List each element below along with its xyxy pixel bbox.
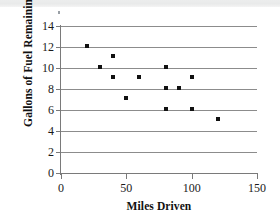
data-point [164,65,168,69]
data-point [216,117,220,121]
x-tick-label-0: 0 [41,182,81,194]
data-point [137,75,141,79]
y-tick-8 [56,89,61,90]
y-tick-14 [56,26,61,27]
scatter-chart: 02468101214 050100150 Gallons of Fuel Re… [0,0,280,223]
y-tick-label-2: 2 [32,146,54,158]
data-point [177,86,181,90]
y-tick-label-14: 14 [32,20,54,32]
x-axis-line [61,173,258,174]
x-tick-0 [61,174,62,179]
gridline-y-10 [61,68,257,69]
y-tick-10 [56,68,61,69]
plot-area [61,26,257,173]
data-point [164,86,168,90]
y-tick-12 [56,47,61,48]
x-tick-150 [257,174,258,179]
data-point [124,96,128,100]
x-tick-label-150: 150 [237,182,277,194]
y-tick-label-0: 0 [32,167,54,179]
data-point [190,75,194,79]
y-tick-label-12: 12 [32,41,54,53]
data-point [85,44,89,48]
y-tick-label-10: 10 [32,62,54,74]
data-point [111,54,115,58]
gridline-y-4 [61,131,257,132]
y-tick-6 [56,110,61,111]
x-tick-label-100: 100 [172,182,212,194]
y-tick-4 [56,131,61,132]
gridline-y-14 [61,26,257,27]
y-tick-label-4: 4 [32,125,54,137]
x-tick-label-50: 50 [106,182,146,194]
gridline-y-12 [61,47,257,48]
x-tick-50 [126,174,127,179]
data-point [164,107,168,111]
gridline-y-2 [61,152,257,153]
data-point [98,65,102,69]
gridline-y-8 [61,89,257,90]
data-point [190,107,194,111]
x-axis-title: Miles Driven [61,200,257,212]
y-tick-label-8: 8 [32,83,54,95]
y-axis-title: Gallons of Fuel Remaining [22,0,34,140]
y-tick-2 [56,152,61,153]
data-point [111,75,115,79]
y-tick-label-6: 6 [32,104,54,116]
x-tick-100 [192,174,193,179]
gridline-y-6 [61,110,257,111]
